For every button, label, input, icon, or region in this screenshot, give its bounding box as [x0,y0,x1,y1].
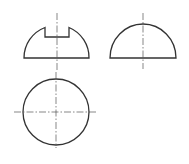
front-view-outline [24,28,89,59]
technical-drawing [0,0,189,164]
top-view [14,72,97,148]
front-view [24,13,89,70]
side-view [110,13,176,69]
